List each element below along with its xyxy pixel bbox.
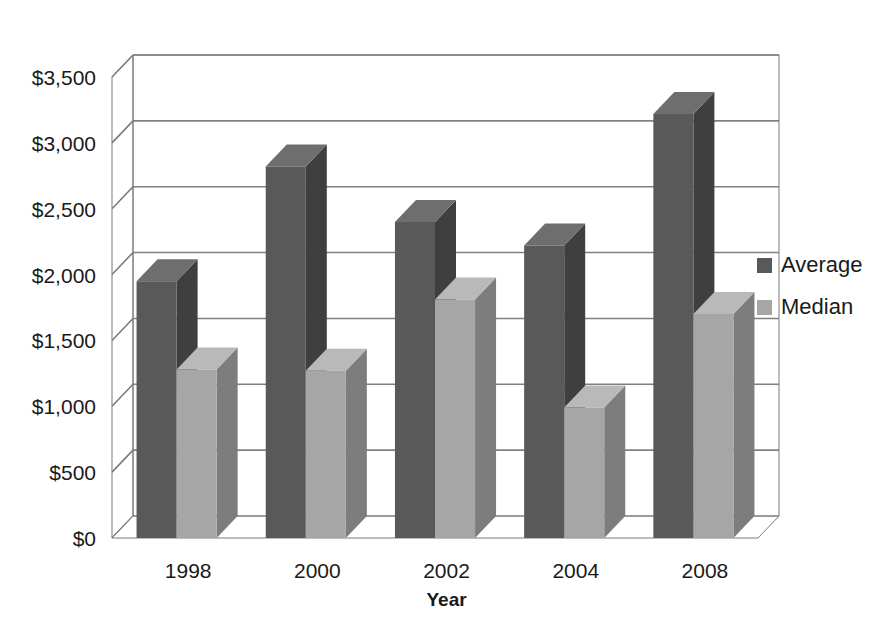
x-axis-title: Year (426, 589, 467, 610)
y-axis-depth-tick (112, 253, 133, 275)
y-axis-depth-tick (112, 187, 133, 209)
y-axis-tick-label: $3,500 (32, 66, 96, 89)
x-axis-title-label: Year (426, 589, 467, 610)
chart-canvas: $3,500$3,000$2,500$2,000$1,500$1,000$500… (0, 0, 877, 630)
chart-legend: AverageMedian (757, 252, 863, 319)
x-axis-tick-label: 2002 (423, 559, 470, 582)
y-axis-tick-label: $2,500 (32, 198, 96, 221)
bar-chart: $3,500$3,000$2,500$2,000$1,500$1,000$500… (0, 0, 877, 630)
y-axis-depth-tick (112, 121, 133, 143)
x-axis-tick-label: 2000 (294, 559, 341, 582)
bar-2008-median (693, 292, 754, 538)
y-axis-depth-tick (112, 318, 133, 340)
y-axis-tick-labels: $3,500$3,000$2,500$2,000$1,500$1,000$500… (32, 66, 96, 550)
x-axis-tick-labels: 19982000200220042008 (165, 559, 729, 582)
y-axis-tick-label: $0 (73, 527, 96, 550)
y-axis-tick-label: $3,000 (32, 132, 96, 155)
legend-swatch-median (757, 300, 772, 315)
y-axis-depth-tick (112, 450, 133, 472)
y-axis-depth-tick (112, 384, 133, 406)
x-axis-tick-label: 2008 (682, 559, 729, 582)
bar-2000-median (306, 349, 367, 538)
y-axis-tick-label: $2,000 (32, 264, 96, 287)
legend-swatch-average (757, 258, 772, 273)
y-axis-tick-label: $1,500 (32, 329, 96, 352)
legend-label-median: Median (781, 294, 853, 319)
bar-1998-median (177, 347, 238, 538)
legend-label-average: Average (781, 252, 863, 277)
bar-2002-median (435, 278, 496, 538)
x-axis-tick-label: 1998 (165, 559, 212, 582)
x-axis-tick-label: 2004 (552, 559, 599, 582)
bars (137, 92, 755, 538)
y-axis-tick-label: $500 (49, 461, 96, 484)
bar-2004-median (564, 386, 625, 538)
y-axis-tick-label: $1,000 (32, 395, 96, 418)
